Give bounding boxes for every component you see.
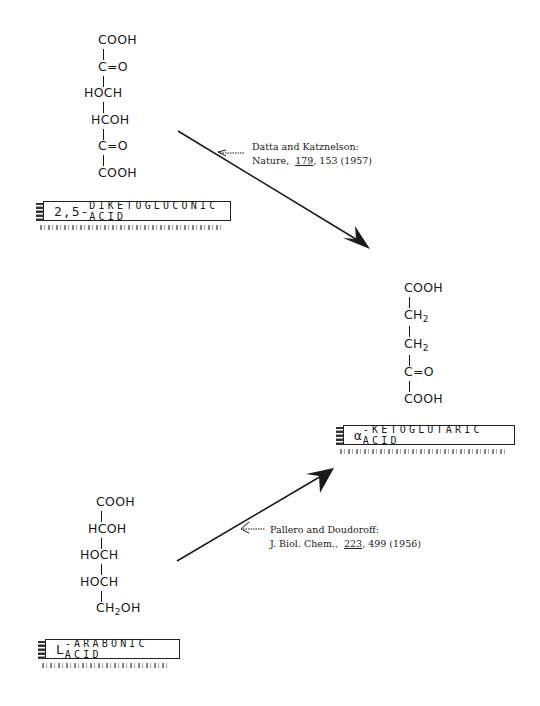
label-shadow-decoration	[42, 663, 170, 668]
label-text: -KETOGLUTARIC ACID	[363, 424, 514, 446]
atom-text: OH	[121, 600, 141, 615]
citation-pallero-doudoroff: Pallero and Doudoroff: J. Biol. Chem., 2…	[270, 523, 421, 551]
atom-group: COOH	[404, 282, 443, 295]
label-prefix: 2,5-	[54, 204, 89, 219]
subscript: 2	[423, 343, 429, 353]
label-prefix: L	[56, 642, 65, 657]
label-l-arabonic-acid: L -ARABONIC ACID	[45, 639, 180, 659]
citation-datta-katznelson: Datta and Katznelson: Nature, 179, 153 (…	[252, 140, 372, 168]
atom-group: HCOH	[91, 114, 130, 127]
label-tab-decoration	[36, 203, 43, 221]
citation-volume: 223	[344, 538, 362, 549]
citation-journal: Nature,	[252, 155, 289, 166]
label-tab-decoration	[336, 427, 343, 445]
atom-text: CH	[404, 307, 423, 322]
label-diketogluconic-acid: 2,5- DIKETOGLUCONIC ACID	[43, 201, 231, 221]
atom-group: C=O	[98, 140, 128, 153]
atom-group: HOCH	[80, 549, 119, 562]
citation-2-pointer-icon	[241, 522, 265, 533]
atom-group: COOH	[98, 167, 137, 180]
label-shadow-decoration	[340, 449, 505, 454]
citation-volume: 179	[295, 155, 313, 166]
atom-group: CH2	[404, 309, 429, 324]
subscript: 2	[423, 314, 429, 324]
label-alpha-ketoglutaric-acid: α -KETOGLUTARIC ACID	[343, 425, 515, 445]
citation-journal: J. Biol. Chem.,	[270, 538, 338, 549]
label-text: -ARABONIC ACID	[65, 638, 179, 660]
atom-group: COOH	[98, 34, 137, 47]
citation-authors: Datta and Katznelson:	[252, 140, 372, 154]
atom-group: C=O	[98, 61, 128, 74]
arrow-2-head-icon	[306, 468, 334, 493]
citation-reference: Nature, 179, 153 (1957)	[252, 154, 372, 168]
atom-group: HOCH	[84, 87, 123, 100]
atom-text: CH	[96, 600, 115, 615]
atom-group: C=O	[404, 366, 434, 379]
atom-group: HOCH	[80, 576, 119, 589]
citation-pages-year: , 499 (1956)	[362, 538, 421, 549]
atom-text: CH	[404, 336, 423, 351]
citation-1-pointer-icon	[218, 150, 245, 156]
reaction-arrows	[0, 0, 540, 706]
label-tab-decoration	[38, 641, 45, 659]
arrow-1-head-icon	[343, 226, 370, 249]
atom-group: COOH	[96, 496, 135, 509]
citation-reference: J. Biol. Chem., 223, 499 (1956)	[270, 537, 421, 551]
atom-group: COOH	[404, 393, 443, 406]
atom-group: CH2OH	[96, 602, 141, 617]
atom-group: HCOH	[88, 523, 127, 536]
atom-group: CH2	[404, 338, 429, 353]
label-text: DIKETOGLUCONIC ACID	[89, 200, 230, 222]
label-prefix: α	[354, 428, 363, 443]
label-shadow-decoration	[40, 225, 222, 230]
citation-pages-year: , 153 (1957)	[313, 155, 372, 166]
pathway-diagram: COOH C=O HOCH HCOH C=O COOH 2,5- DIKETOG…	[0, 0, 540, 706]
citation-authors: Pallero and Doudoroff:	[270, 523, 421, 537]
